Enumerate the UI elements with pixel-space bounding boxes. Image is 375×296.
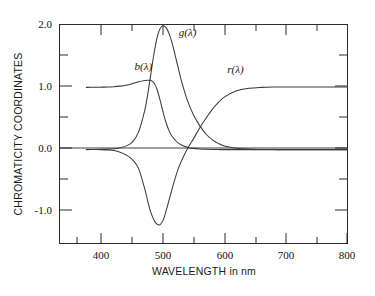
- chart-figure: 2.0 1.0 0.0 -1.0 400 500 600 700 800 WAV…: [0, 0, 375, 296]
- x-tick-label-700: 700: [278, 249, 295, 261]
- x-tick-labels: 400 500 600 700 800: [93, 249, 356, 261]
- curve-label-g: g(λ): [179, 26, 197, 39]
- x-axis-ticks: [77, 25, 347, 244]
- y-axis-ticks: [60, 25, 347, 211]
- curve-label-r: r(λ): [227, 63, 244, 76]
- y-tick-label-1.0: 1.0: [38, 80, 52, 92]
- plot-frame: [60, 25, 348, 244]
- x-tick-label-600: 600: [217, 249, 234, 261]
- y-tick-label--1.0: -1.0: [35, 204, 53, 216]
- curve-g-lambda: [86, 26, 347, 150]
- x-tick-label-800: 800: [339, 249, 356, 261]
- y-tick-labels: 2.0 1.0 0.0 -1.0: [35, 18, 53, 216]
- x-axis-title: WAVELENGTH in nm: [152, 265, 256, 277]
- y-axis-title: CHROMATICITY COORDINATES: [12, 53, 24, 216]
- curve-r-lambda: [86, 87, 347, 225]
- curve-b-lambda: [86, 80, 347, 149]
- curves-group: [86, 26, 347, 225]
- y-tick-label-2.0: 2.0: [38, 18, 52, 30]
- y-tick-label-0.0: 0.0: [38, 142, 52, 154]
- x-tick-label-400: 400: [93, 249, 110, 261]
- x-tick-label-500: 500: [155, 249, 172, 261]
- chromaticity-coordinates-chart: 2.0 1.0 0.0 -1.0 400 500 600 700 800 WAV…: [0, 0, 375, 296]
- curve-label-b: b(λ): [135, 60, 153, 73]
